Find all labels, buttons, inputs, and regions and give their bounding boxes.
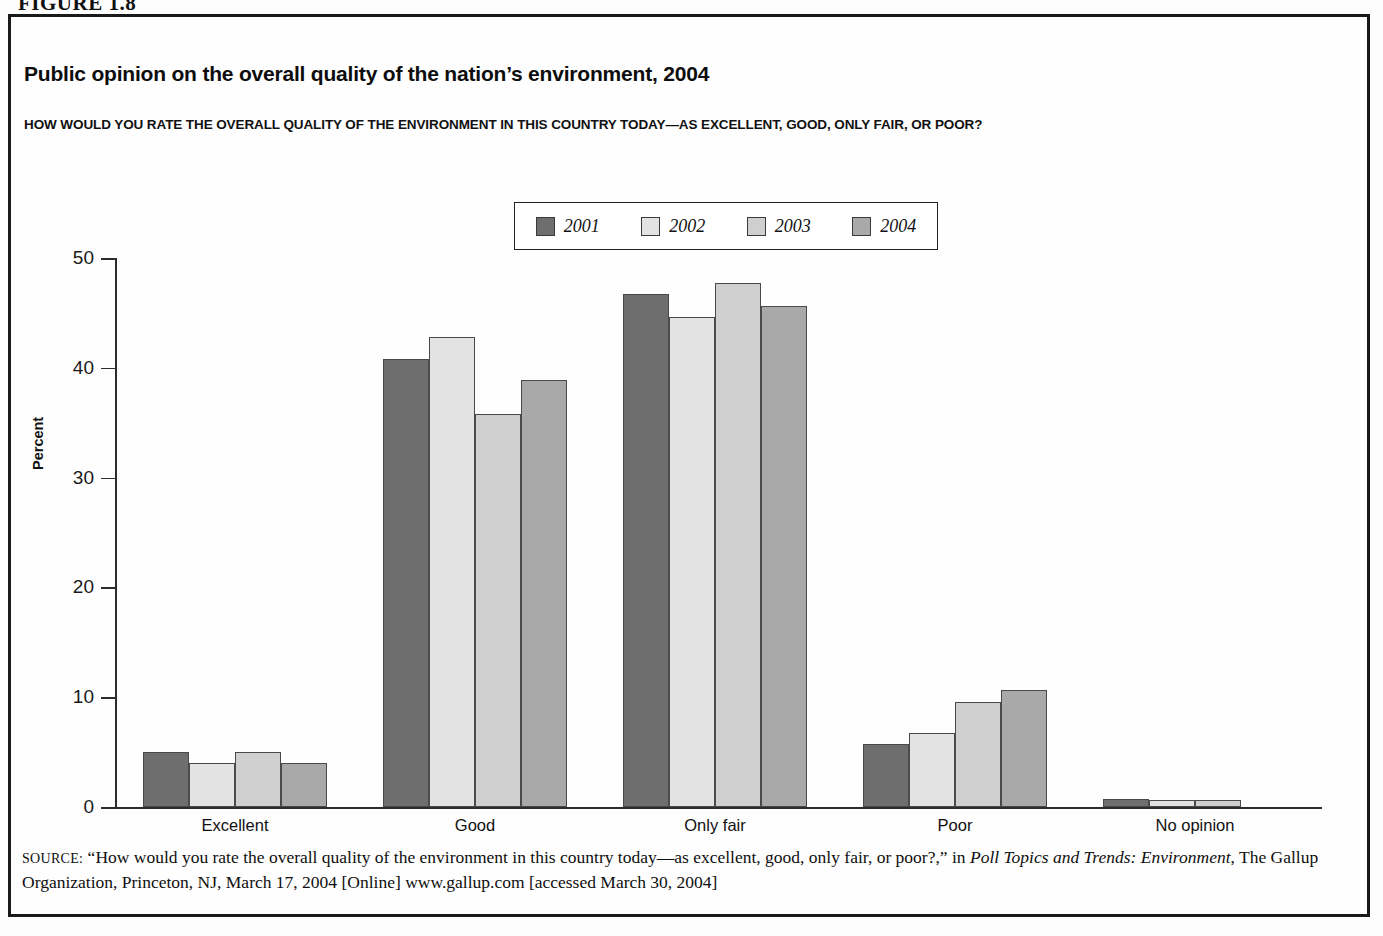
y-tick-label-40: 40 (40, 357, 94, 379)
bar-no-opinion-2001[interactable] (1103, 799, 1149, 807)
bar-good-2001[interactable] (383, 359, 429, 807)
bar-good-2002[interactable] (429, 337, 475, 807)
bars-layer (115, 258, 1315, 807)
bar-excellent-2001[interactable] (143, 752, 189, 807)
bar-good-2003[interactable] (475, 414, 521, 807)
y-tick-30 (101, 478, 115, 480)
y-tick-label-30: 30 (40, 467, 94, 489)
bar-no-opinion-2002[interactable] (1149, 800, 1195, 807)
bar-group-only-fair (623, 258, 807, 807)
y-tick-10 (101, 697, 115, 699)
category-label-only-fair: Only fair (605, 816, 825, 835)
y-tick-20 (101, 587, 115, 589)
bar-good-2004[interactable] (521, 380, 567, 807)
source-note: SOURCE: “How would you rate the overall … (22, 845, 1342, 896)
y-tick-label-20: 20 (40, 576, 94, 598)
y-tick-label-50: 50 (40, 247, 94, 269)
source-label: SOURCE: (22, 851, 83, 866)
category-label-no-opinion: No opinion (1085, 816, 1305, 835)
source-text-1: “How would you rate the overall quality … (83, 847, 970, 867)
bar-no-opinion-2003[interactable] (1195, 800, 1241, 807)
category-label-excellent: Excellent (125, 816, 345, 835)
x-axis-line (115, 807, 1322, 809)
bar-excellent-2004[interactable] (281, 763, 327, 807)
bar-poor-2002[interactable] (909, 733, 955, 807)
figure-page: FIGURE 1.8 Public opinion on the overall… (0, 0, 1383, 936)
bar-poor-2001[interactable] (863, 744, 909, 807)
y-tick-0 (101, 807, 115, 809)
bar-only-fair-2002[interactable] (669, 317, 715, 807)
bar-group-no-opinion (1103, 258, 1287, 807)
y-tick-50 (101, 258, 115, 260)
y-tick-40 (101, 368, 115, 370)
bar-group-poor (863, 258, 1047, 807)
category-label-good: Good (365, 816, 585, 835)
bar-poor-2003[interactable] (955, 702, 1001, 807)
bar-only-fair-2003[interactable] (715, 283, 761, 807)
source-italic-title: Poll Topics and Trends: Environment (970, 847, 1231, 867)
category-label-poor: Poor (845, 816, 1065, 835)
bar-only-fair-2004[interactable] (761, 306, 807, 807)
bar-excellent-2003[interactable] (235, 752, 281, 807)
plot-wrapper: Percent 01020304050 ExcellentGoodOnly fa… (0, 0, 1362, 903)
bar-only-fair-2001[interactable] (623, 294, 669, 807)
bar-group-excellent (143, 258, 327, 807)
y-axis-label: Percent (30, 417, 46, 470)
y-tick-label-10: 10 (40, 686, 94, 708)
bar-excellent-2002[interactable] (189, 763, 235, 807)
bar-group-good (383, 258, 567, 807)
bar-poor-2004[interactable] (1001, 690, 1047, 807)
y-tick-label-0: 0 (40, 796, 94, 818)
